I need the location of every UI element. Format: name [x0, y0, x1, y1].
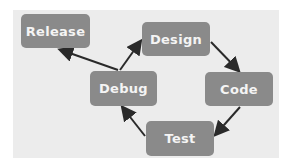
node-release-label: Release	[26, 24, 86, 39]
arrow-debug-to-design	[120, 42, 140, 70]
node-design: Design	[142, 22, 210, 56]
node-test-label: Test	[164, 131, 195, 146]
node-design-label: Design	[150, 32, 202, 47]
arrow-design-to-code	[211, 42, 238, 70]
arrow-test-to-debug	[123, 108, 145, 136]
node-release: Release	[21, 14, 90, 48]
arrow-code-to-test	[216, 107, 240, 134]
node-debug-label: Debug	[99, 81, 148, 96]
node-test: Test	[146, 121, 214, 156]
arrow-debug-to-release	[61, 50, 118, 70]
node-code: Code	[205, 72, 273, 106]
node-debug: Debug	[90, 71, 157, 106]
node-code-label: Code	[220, 82, 258, 97]
